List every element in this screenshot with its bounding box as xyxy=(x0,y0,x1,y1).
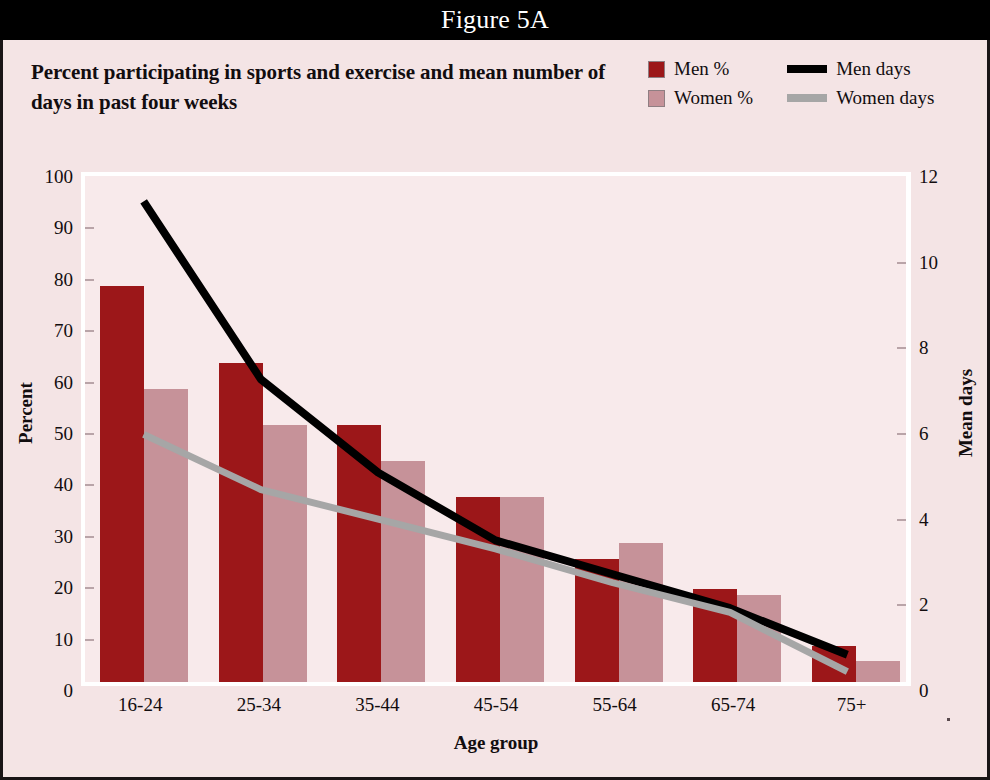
legend-line-swatch-icon xyxy=(787,94,827,102)
chart-subtitle: Percent participating in sports and exer… xyxy=(31,58,611,118)
y-axis-left-tick-label: 100 xyxy=(45,167,74,186)
y-axis-right-tick-label: 8 xyxy=(919,338,929,357)
legend-item-label: Women days xyxy=(836,87,934,109)
y-axis-right-tick-label: 6 xyxy=(919,424,929,443)
legend-color-swatch-icon xyxy=(648,61,665,78)
y-axis-right-tick-label: 4 xyxy=(919,510,929,529)
legend-item[interactable]: Men % xyxy=(648,58,753,80)
y-axis-right-title: Mean days xyxy=(949,158,983,668)
y-axis-left-tick-label: 10 xyxy=(54,630,73,649)
x-axis-tick-label: 75+ xyxy=(792,694,911,716)
x-axis-tick-label: 45-54 xyxy=(437,694,556,716)
y-axis-left-ticks: 0102030405060708090100 xyxy=(33,158,79,688)
y-axis-right-tick-label: 0 xyxy=(919,681,929,700)
y-axis-left-tick-label: 40 xyxy=(54,475,73,494)
page-speck xyxy=(947,718,950,721)
legend-color-swatch-icon xyxy=(648,90,665,107)
y-axis-right-tick-label: 12 xyxy=(919,167,938,186)
y-axis-left-tick-label: 90 xyxy=(54,218,73,237)
y-axis-left-tick-label: 80 xyxy=(54,270,73,289)
legend-line-swatch-icon xyxy=(787,65,827,73)
figure-title-bar: Figure 5A xyxy=(0,0,990,40)
y-axis-left-tick-label: 20 xyxy=(54,578,73,597)
x-axis-tick-label: 55-64 xyxy=(555,694,674,716)
x-axis-tick-label: 35-44 xyxy=(318,694,437,716)
figure-title: Figure 5A xyxy=(441,5,549,35)
legend-item-label: Women % xyxy=(674,87,753,109)
y-axis-left-tick-label: 0 xyxy=(64,681,74,700)
y-axis-right-tick-label: 10 xyxy=(919,253,938,272)
line-series-layer xyxy=(85,176,906,684)
y-axis-right-title-text: Mean days xyxy=(955,369,977,457)
plot-area xyxy=(81,172,911,686)
y-axis-left-tick-label: 50 xyxy=(54,424,73,443)
y-axis-left-tick-label: 60 xyxy=(54,373,73,392)
x-axis-tick-label: 25-34 xyxy=(200,694,319,716)
y-axis-left-tick-label: 30 xyxy=(54,527,73,546)
line-women-days[interactable] xyxy=(144,434,848,671)
y-axis-left-tick-label: 70 xyxy=(54,321,73,340)
x-axis-title: Age group xyxy=(81,732,911,754)
line-men-days[interactable] xyxy=(144,201,848,654)
x-axis-tick-label: 65-74 xyxy=(674,694,793,716)
legend-item[interactable]: Women % xyxy=(648,87,753,109)
x-axis-tick-label: 16-24 xyxy=(81,694,200,716)
x-axis-tick-labels: 16-2425-3435-4445-5455-6465-7475+ xyxy=(81,694,911,728)
plot-area-wrapper: Percent 0102030405060708090100 024681012… xyxy=(3,158,987,777)
legend-item-label: Men days xyxy=(836,58,910,80)
legend-item[interactable]: Women days xyxy=(787,87,934,109)
chart-header: Percent participating in sports and exer… xyxy=(3,40,987,158)
legend-item-label: Men % xyxy=(674,58,729,80)
y-axis-right-tick-label: 2 xyxy=(919,595,929,614)
figure-container: Figure 5A Percent participating in sport… xyxy=(0,0,990,780)
chart-legend: Men %Men daysWomen %Women days xyxy=(648,58,934,109)
legend-item[interactable]: Men days xyxy=(787,58,934,80)
